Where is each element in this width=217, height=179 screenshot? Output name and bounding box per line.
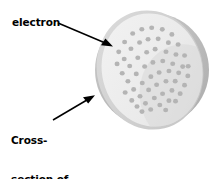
electron-dot	[178, 91, 183, 96]
electron-dot	[160, 92, 165, 97]
electron-dot	[123, 90, 128, 95]
electron-dot	[150, 60, 155, 65]
arrow-to-electron	[58, 23, 113, 47]
cross-section-face	[90, 3, 217, 158]
electron-dot	[169, 88, 174, 93]
electron-dot	[157, 70, 162, 75]
electron-dot	[128, 47, 133, 52]
electron-dot	[154, 82, 159, 87]
electron-label: electron	[12, 16, 60, 29]
electron-dot	[146, 88, 151, 93]
electron-dot	[139, 27, 144, 32]
electron-dot	[173, 52, 178, 57]
electron-dot	[143, 101, 148, 106]
electron-dot	[157, 103, 162, 108]
electron-dot	[115, 62, 120, 67]
electron-dot	[127, 64, 132, 69]
electron-dot	[180, 64, 185, 69]
electron-dot	[156, 37, 161, 42]
electron-dot	[160, 27, 165, 32]
electron-dot	[120, 71, 125, 76]
electron-dot	[153, 47, 158, 52]
electron-dot	[148, 107, 153, 112]
electron-dot	[152, 96, 157, 101]
electron-dot	[163, 108, 168, 113]
electron-dot	[173, 99, 178, 104]
electron-dot	[160, 59, 165, 64]
electron-dot	[130, 31, 135, 36]
electron-dot	[135, 55, 140, 60]
cross-section-line-2: section of	[11, 173, 68, 179]
electron-dot	[122, 57, 127, 62]
electron-dot	[134, 104, 139, 109]
electron-dot	[163, 49, 168, 54]
electron-dot	[116, 50, 121, 55]
electron-dot	[149, 25, 154, 30]
electron-dot	[166, 98, 171, 103]
electron-dot	[146, 37, 151, 42]
electron-dot	[122, 40, 127, 45]
electron-dot	[148, 74, 153, 79]
electron-dot	[131, 87, 136, 92]
cross-section-label: Cross- section of positively charged sph…	[11, 108, 68, 179]
electron-dot	[169, 32, 174, 37]
electron-dot	[163, 79, 168, 84]
electron-dot	[166, 40, 171, 45]
electron-dot	[182, 53, 187, 58]
electron-dot	[138, 94, 143, 99]
electron-dot	[186, 64, 191, 69]
cross-section-line-1: Cross-	[11, 134, 68, 147]
electron-dot	[134, 72, 139, 77]
electron-dot	[140, 81, 145, 86]
electron-dot	[142, 64, 147, 69]
electron-dot	[166, 69, 171, 74]
electron-dot	[176, 71, 181, 76]
electron-dot	[176, 42, 181, 47]
figure-container: electron Cross- section of positively ch…	[0, 0, 217, 179]
electron-dot	[139, 109, 144, 114]
electron-dot	[170, 61, 175, 66]
electron-dot	[129, 98, 134, 103]
electron-dot	[182, 83, 187, 88]
electron-dot	[185, 74, 190, 79]
electron-dot	[173, 79, 178, 84]
electron-dot	[125, 79, 130, 84]
electron-dot	[137, 40, 142, 45]
electron-dot	[144, 50, 149, 55]
